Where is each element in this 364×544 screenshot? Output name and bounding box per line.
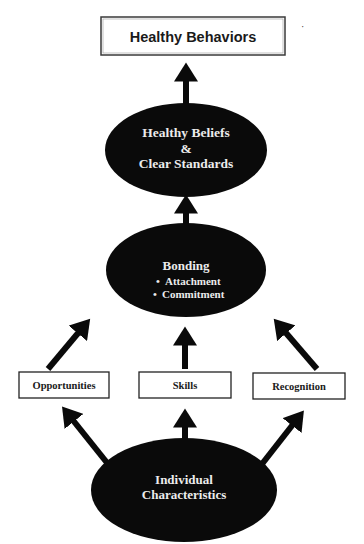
healthy-beliefs-node: Healthy Beliefs & Clear Standards [105,103,267,197]
recognition-box: Recognition [253,373,345,399]
skills-box: Skills [139,372,231,398]
skills-label: Skills [173,380,198,391]
individual-line1: Individual [155,472,213,487]
healthy-behaviors-label: Healthy Behaviors [130,29,257,45]
social-development-diagram: Healthy Behaviors · Healthy Beliefs & Cl… [0,0,364,544]
healthy-behaviors-box: Healthy Behaviors [101,17,285,55]
opportunities-box: Opportunities [19,372,109,398]
arrow-diagonal-icon [48,326,84,369]
bullet-icon: • [156,275,160,287]
beliefs-line2: & [180,141,191,156]
bonding-bullet-attachment: Attachment [165,275,221,287]
bonding-title: Bonding [163,258,210,273]
bonding-node: Bonding • Attachment • Commitment [106,223,266,317]
individual-characteristics-node: Individual Characteristics [91,438,277,542]
individual-line2: Characteristics [142,487,226,502]
beliefs-line1: Healthy Beliefs [142,125,229,140]
stray-mark: · [301,21,304,32]
recognition-label: Recognition [272,381,326,392]
arrow-diagonal-icon [262,418,298,464]
arrow-diagonal-icon [280,326,317,369]
opportunities-label: Opportunities [32,380,95,391]
beliefs-line3: Clear Standards [139,156,234,171]
bonding-bullet-commitment: Commitment [162,288,225,300]
arrow-diagonal-icon [68,414,108,464]
bullet-icon: • [153,288,157,300]
